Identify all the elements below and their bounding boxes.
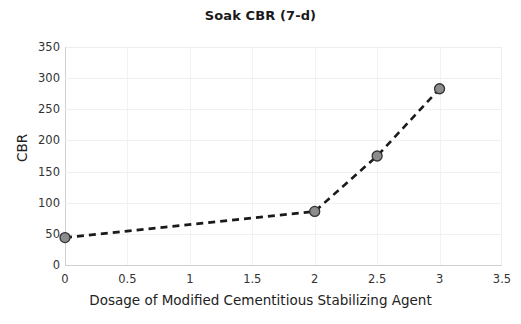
plot-border-top	[65, 47, 502, 48]
gridline-vertical	[377, 47, 378, 265]
gridline-vertical	[190, 47, 191, 265]
y-axis-label: CBR	[14, 108, 30, 188]
gridline-horizontal	[65, 172, 502, 173]
y-tick-label: 0	[4, 258, 60, 272]
x-tick-label: 1.5	[232, 272, 272, 286]
x-tick-label: 1	[170, 272, 210, 286]
y-tick-label: 200	[4, 133, 60, 147]
x-tick-label: 0	[45, 272, 85, 286]
gridline-horizontal	[65, 109, 502, 110]
y-tick-label: 100	[4, 196, 60, 210]
y-tick-label: 50	[4, 227, 60, 241]
gridline-horizontal	[65, 78, 502, 79]
gridline-vertical	[315, 47, 316, 265]
gridline-horizontal	[65, 140, 502, 141]
gridline-vertical	[127, 47, 128, 265]
x-tick-label: 3	[420, 272, 460, 286]
x-tick-label: 3.5	[482, 272, 521, 286]
y-tick-label: 250	[4, 102, 60, 116]
x-tick-label: 2.5	[357, 272, 397, 286]
gridline-vertical	[440, 47, 441, 265]
x-axis-label: Dosage of Modified Cementitious Stabiliz…	[0, 292, 521, 308]
y-tick-label: 150	[4, 165, 60, 179]
x-tick-label: 0.5	[107, 272, 147, 286]
x-axis-line	[65, 265, 502, 266]
gridline-horizontal	[65, 234, 502, 235]
x-tick-label: 2	[295, 272, 335, 286]
y-tick-label: 300	[4, 71, 60, 85]
gridline-horizontal	[65, 203, 502, 204]
y-tick-label: 350	[4, 40, 60, 54]
chart-container: Soak CBR (7-d) 050100150200250300350 00.…	[0, 0, 521, 324]
chart-title: Soak CBR (7-d)	[0, 8, 521, 23]
gridline-vertical	[252, 47, 253, 265]
plot-area	[65, 47, 502, 265]
